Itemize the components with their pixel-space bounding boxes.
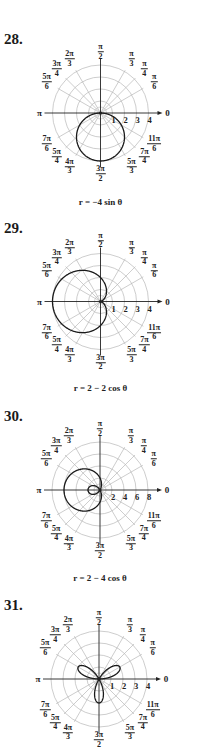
- angle-numerator: 11π: [147, 135, 161, 144]
- angle-numerator: π: [97, 420, 103, 429]
- angle-label: π3: [128, 51, 134, 69]
- radial-tick-label: 3: [134, 681, 138, 691]
- angle-denominator: 6: [152, 459, 156, 468]
- angle-label: 11π6: [146, 701, 160, 719]
- angle-numerator: 5π: [42, 262, 52, 271]
- angle-numerator: 3π: [94, 731, 104, 740]
- radial-tick-label: 4: [146, 681, 150, 691]
- angle-numerator: 4π: [64, 346, 74, 355]
- angle-denominator: 4: [54, 446, 58, 455]
- angle-label: π6: [151, 73, 157, 91]
- angle-label: 5π3: [126, 535, 136, 553]
- angle-label: 5π6: [41, 450, 51, 468]
- angle-denominator: 2: [98, 241, 102, 250]
- angle-numerator: π: [127, 617, 133, 626]
- angle-denominator: 3: [129, 248, 133, 257]
- angle-numerator: 5π: [125, 724, 135, 733]
- radial-tick-label: 4: [147, 304, 151, 314]
- angle-label: 5π4: [51, 525, 61, 543]
- pole-dot: [97, 677, 100, 680]
- equation-caption: r = 2 − 2 cos θ: [0, 383, 201, 393]
- radial-tick-label: 8: [147, 492, 151, 502]
- angle-label: π3: [127, 617, 133, 635]
- angle-label: π4: [140, 626, 146, 644]
- angle-label: π2: [97, 232, 103, 250]
- angle-numerator: π: [141, 249, 147, 258]
- angle-label: 2π3: [64, 428, 74, 446]
- angle-denominator: 4: [55, 346, 59, 355]
- angle-label: 5π3: [126, 158, 136, 176]
- pole-dot: [99, 300, 102, 303]
- angle-label: π4: [141, 437, 147, 455]
- angle-denominator: 4: [55, 69, 59, 78]
- polar-axis-arrow-icon: [158, 111, 163, 115]
- angle-label: 4π3: [64, 535, 74, 553]
- angle-label-zero: 0: [164, 674, 169, 684]
- angle-denominator: 4: [55, 258, 59, 267]
- angle-label: 11π6: [147, 135, 161, 153]
- radial-tick-label: 4: [147, 115, 151, 125]
- angle-denominator: 4: [141, 723, 145, 732]
- angle-denominator: 2: [97, 618, 101, 627]
- problem-number: 31.: [4, 597, 23, 614]
- angle-numerator: 5π: [126, 535, 136, 544]
- polar-axis-arrow-icon: [157, 488, 162, 492]
- angle-denominator: 6: [152, 521, 156, 530]
- angle-label: 5π3: [126, 346, 136, 364]
- equation-caption: r = −4 sin θ: [0, 197, 201, 207]
- angle-label: 7π6: [41, 512, 51, 530]
- angle-denominator: 4: [142, 446, 146, 455]
- angle-denominator: 6: [45, 271, 49, 280]
- angle-denominator: 6: [45, 82, 49, 91]
- angle-label: 7π6: [40, 701, 50, 719]
- angle-numerator: 7π: [42, 135, 52, 144]
- angle-denominator: 3: [67, 60, 71, 69]
- angle-label: 5π4: [51, 337, 61, 355]
- angle-denominator: 4: [54, 534, 58, 543]
- angle-numerator: π: [141, 60, 147, 69]
- angle-numerator: 5π: [51, 525, 61, 534]
- angle-label: 5π3: [125, 724, 135, 742]
- angle-label: 3π2: [94, 731, 104, 749]
- angle-label: 11π6: [147, 324, 161, 342]
- angle-denominator: 2: [98, 551, 102, 560]
- angle-label-pi: π: [37, 297, 42, 307]
- angle-numerator: π: [150, 450, 156, 459]
- angle-label: 4π3: [64, 158, 74, 176]
- angle-numerator: 5π: [51, 337, 61, 346]
- angle-numerator: 3π: [95, 542, 105, 551]
- angle-numerator: 3π: [95, 354, 105, 363]
- angle-denominator: 6: [152, 144, 156, 153]
- angle-denominator: 4: [142, 346, 146, 355]
- angle-denominator: 6: [152, 271, 156, 280]
- angle-label: 5π6: [40, 639, 50, 657]
- angle-denominator: 4: [142, 258, 146, 267]
- angle-numerator: 7π: [40, 701, 50, 710]
- angle-numerator: π: [128, 428, 134, 437]
- angle-label-zero: 0: [165, 297, 170, 307]
- angle-numerator: π: [97, 43, 103, 52]
- angle-numerator: π: [151, 73, 157, 82]
- angle-denominator: 2: [98, 52, 102, 61]
- angle-numerator: π: [97, 232, 103, 241]
- angle-numerator: 2π: [63, 617, 73, 626]
- angle-denominator: 6: [43, 710, 47, 719]
- angle-label: 5π6: [42, 262, 52, 280]
- angle-denominator: 3: [66, 626, 70, 635]
- equation-caption: r = 2 − 4 cos θ: [0, 573, 200, 583]
- angle-denominator: 3: [67, 544, 71, 553]
- angle-denominator: 4: [141, 635, 145, 644]
- angle-numerator: 11π: [147, 324, 161, 333]
- angle-label: π3: [128, 428, 134, 446]
- angle-label: 3π2: [95, 165, 105, 183]
- angle-label: π3: [128, 239, 134, 257]
- angle-denominator: 6: [151, 648, 155, 657]
- angle-denominator: 3: [67, 355, 71, 364]
- angle-denominator: 4: [53, 723, 57, 732]
- problem-number: 30.: [4, 408, 23, 425]
- radial-tick-label: 1: [111, 304, 115, 314]
- angle-denominator: 3: [67, 437, 71, 446]
- angle-denominator: 3: [66, 733, 70, 742]
- angle-label: 3π4: [51, 60, 61, 78]
